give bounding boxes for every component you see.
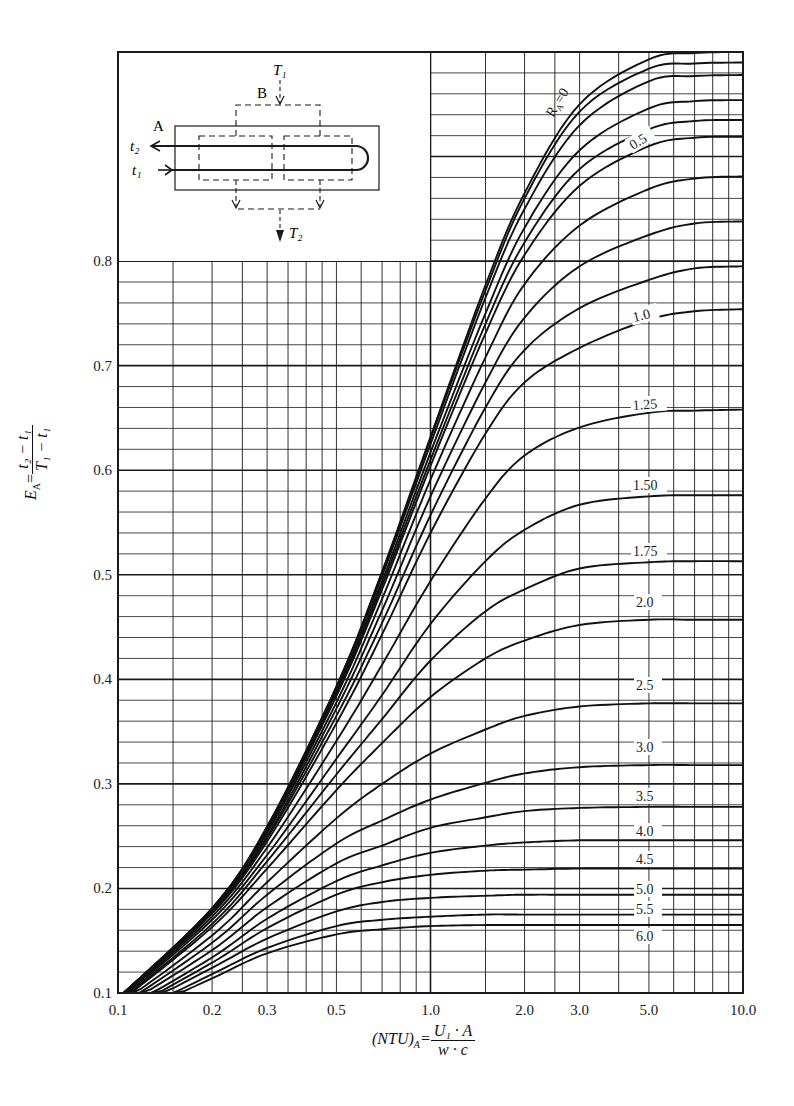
x-tick-label: 0.3 xyxy=(258,1002,277,1018)
y-label-denominator: T₁ − t₁ xyxy=(33,425,51,474)
curve-label: 6.0 xyxy=(636,929,654,944)
inset-label-B: B xyxy=(257,85,267,101)
x-label-numerator: U₁ · A xyxy=(431,1022,476,1041)
curve-label: 3.0 xyxy=(636,740,654,755)
x-label-lhs: (NTU) xyxy=(372,1030,414,1047)
curve-label: 5.5 xyxy=(636,902,654,917)
curve-label: 4.0 xyxy=(636,824,654,839)
curve-label: 1.50 xyxy=(633,478,658,493)
x-tick-label: 0.2 xyxy=(203,1002,222,1018)
y-tick-label: 0.4 xyxy=(93,671,112,687)
y-label-numerator: t₂ − t₁ xyxy=(14,425,33,474)
y-tick-label: 0.1 xyxy=(93,985,112,1001)
inset-label-A: A xyxy=(153,118,164,134)
curve-label: 1.75 xyxy=(633,544,658,559)
x-tick-label: 1.0 xyxy=(421,1002,440,1018)
y-tick-label: 0.3 xyxy=(93,776,112,792)
inset-label-T1: T₁ xyxy=(273,62,287,78)
x-tick-label: 10.0 xyxy=(730,1002,756,1018)
x-axis-label: (NTU)A=U₁ · Aw · c xyxy=(372,1022,475,1059)
curve-label: 3.5 xyxy=(636,789,654,804)
inset-label-T2: T₂ xyxy=(289,225,303,241)
x-tick-label: 3.0 xyxy=(570,1002,589,1018)
y-axis-label: EA=t₂ − t₁T₁ − t₁ xyxy=(14,425,51,500)
y-tick-label: 0.2 xyxy=(93,880,112,896)
y-label-lhs: E xyxy=(22,490,39,500)
y-tick-label: 0.6 xyxy=(93,462,112,478)
inset-label-t2: t₂ xyxy=(130,138,139,154)
y-tick-label: 0.7 xyxy=(93,358,112,374)
curve-label: 2.5 xyxy=(636,678,654,693)
x-tick-label: 0.1 xyxy=(109,1002,128,1018)
inset-label-t1: t₁ xyxy=(132,162,141,178)
chart-canvas: RA=00.51.01.251.501.752.02.53.03.54.04.5… xyxy=(0,0,794,1106)
y-label-fraction: t₂ − t₁T₁ − t₁ xyxy=(14,425,51,474)
x-tick-label: 2.0 xyxy=(515,1002,534,1018)
x-label-denominator: w · c xyxy=(431,1041,476,1059)
y-tick-label: 0.5 xyxy=(93,567,112,583)
curve-label: 1.25 xyxy=(632,396,657,413)
x-label-sub: A xyxy=(414,1039,420,1050)
curve-label: 5.0 xyxy=(636,882,654,897)
x-tick-label: 0.5 xyxy=(327,1002,346,1018)
curve-label: 4.5 xyxy=(636,852,654,867)
y-label-sub: A xyxy=(31,483,42,490)
inset-exchanger-diagram: T₁ B A t₂ t₁ T₂ xyxy=(118,52,430,261)
y-tick-label: 0.8 xyxy=(93,253,112,269)
x-label-fraction: U₁ · Aw · c xyxy=(431,1022,476,1059)
curve-label: 2.0 xyxy=(636,595,654,610)
curve-label: RA=0 xyxy=(543,86,574,121)
x-tick-label: 5.0 xyxy=(640,1002,659,1018)
